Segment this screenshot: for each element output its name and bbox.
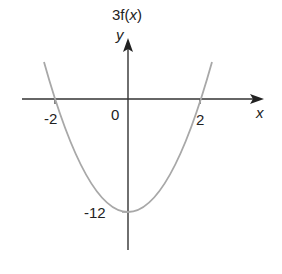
y-tick-label-neg12: -12	[84, 204, 106, 221]
y-axis-label: y	[115, 26, 125, 43]
x-axis-label: x	[255, 104, 264, 121]
x-tick-label-neg2: -2	[44, 110, 57, 127]
origin-label: 0	[111, 106, 119, 123]
function-label: 3f(x)	[112, 6, 142, 23]
parabola-graph: 3f(x) y x 0 -2 2 -12	[0, 0, 282, 274]
x-tick-label-2: 2	[196, 111, 204, 128]
